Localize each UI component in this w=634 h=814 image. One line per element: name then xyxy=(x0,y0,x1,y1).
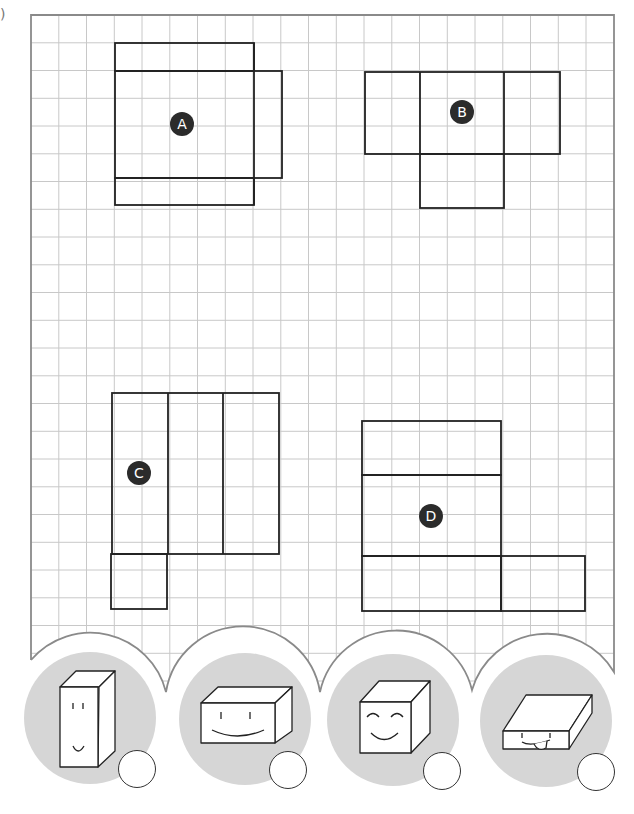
answer-circle-tall-box[interactable] xyxy=(118,750,156,788)
grid-paper xyxy=(31,15,614,700)
worksheet-canvas xyxy=(0,0,634,814)
net-c-label: C xyxy=(127,461,151,485)
answer-circle-cube[interactable] xyxy=(423,752,461,790)
tall-box-figure xyxy=(60,671,115,767)
net-b-label: B xyxy=(450,100,474,124)
net-d-label: D xyxy=(419,504,443,528)
answer-circle-flat-box[interactable] xyxy=(577,753,615,791)
wide-box-figure xyxy=(201,687,292,743)
cube-figure xyxy=(360,681,430,753)
worksheet: ) xyxy=(0,0,634,814)
net-a-label: A xyxy=(170,112,194,136)
answer-circle-wide-box[interactable] xyxy=(269,751,307,789)
